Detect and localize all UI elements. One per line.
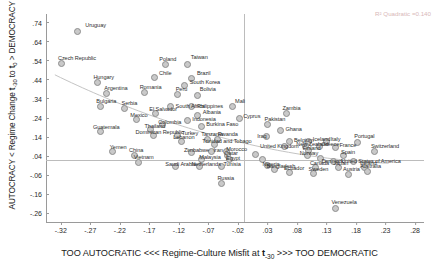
x-tick-label: .23 — [381, 222, 391, 234]
data-point-label: Zambia — [282, 105, 300, 111]
y-tick-label: .74 — [32, 19, 46, 26]
data-point-label: Spain — [341, 149, 355, 155]
data-point — [151, 74, 158, 81]
data-point-label: Brazil — [197, 70, 211, 76]
data-point-label: Switzerland — [371, 143, 399, 149]
data-point-label: South Korea — [190, 79, 220, 85]
y-tick-label: .64 — [32, 38, 46, 45]
data-point-label: Iraq — [257, 133, 266, 139]
data-point-label: China — [129, 147, 143, 153]
data-point — [184, 117, 191, 124]
data-point-label: Australia — [360, 163, 381, 169]
data-point-label: Rwanda — [218, 131, 238, 137]
data-point-label: Yemen — [110, 144, 127, 150]
data-point-label: Albania — [203, 109, 221, 115]
data-point-label: Argentina — [104, 85, 127, 91]
data-point-label: Bolivia — [200, 86, 216, 92]
data-point-label: Greece — [321, 141, 339, 147]
data-point-label: Venezuela — [331, 199, 356, 205]
data-point-label: El Salvador — [149, 106, 177, 112]
data-point-label: Sweden — [309, 166, 329, 172]
x-tick-label: -.12 — [173, 222, 185, 234]
data-point-label: Vietnam — [134, 154, 154, 160]
data-point-label: Portugal — [354, 133, 374, 139]
data-point-label: Lebanon — [173, 134, 194, 140]
data-point-label: Norway — [300, 150, 318, 156]
y-tick-label: .54 — [32, 57, 46, 64]
data-point — [229, 103, 236, 110]
data-point-label: Mexico — [130, 112, 147, 118]
x-tick-label: -.22 — [114, 222, 126, 234]
y-tick-label: .24 — [32, 115, 46, 122]
y-tick-label: .34 — [32, 95, 46, 102]
data-point-label: Uruguay — [85, 22, 106, 28]
x-tick-label: .03 — [263, 222, 273, 234]
data-point-label: Tunisia — [223, 161, 240, 167]
y-tick-label: .04 — [32, 153, 46, 160]
data-point-label: Peru — [176, 86, 188, 92]
data-point-label: United Kingdom — [260, 143, 299, 149]
scatter-chart: AUTOCRACY < Regime Change t-30 to t0 > D… — [0, 0, 439, 272]
x-tick-label: .18 — [351, 222, 361, 234]
y-tick-label: .44 — [32, 76, 46, 83]
data-point — [332, 205, 339, 212]
data-point-label: Philippines — [197, 103, 223, 109]
data-point-label: France — [339, 142, 356, 148]
data-point-label: Czech Republic — [58, 55, 96, 61]
data-point — [103, 90, 110, 97]
data-point-label: Ghana — [285, 126, 301, 132]
data-point-label: Ecuador — [284, 165, 304, 171]
data-point-label: Bulgaria — [96, 98, 116, 104]
y-tick-label: -.16 — [30, 191, 46, 198]
data-point-label: Mali — [235, 98, 245, 104]
y-tick-label: -.06 — [30, 172, 46, 179]
data-point-label: Chile — [159, 70, 171, 76]
data-point-label: Iran — [213, 147, 222, 153]
data-point-label: Russia — [217, 175, 234, 181]
x-tick-label: -.02 — [232, 222, 244, 234]
data-point-label: Hungary — [93, 74, 114, 80]
data-point-label: Taiwan — [191, 54, 208, 60]
data-point-label: Zimbabwe — [184, 147, 209, 153]
data-point-label: Netherlands — [192, 161, 221, 167]
data-point-label: Cyprus — [243, 113, 260, 119]
y-axis-title: AUTOCRACY < Regime Change t-30 to t0 > D… — [8, 0, 19, 210]
x-tick-label: .13 — [322, 222, 332, 234]
x-tick-label: -.27 — [84, 222, 96, 234]
data-point-label: Malaysia — [199, 154, 220, 160]
data-point-label: Austria — [343, 166, 360, 172]
data-point-label: Poland — [159, 56, 176, 62]
data-point — [97, 103, 104, 110]
x-tick-label: -.07 — [202, 222, 214, 234]
data-point-label: Egypt — [226, 155, 240, 161]
data-point — [74, 28, 81, 35]
data-point-label: Guatemala — [93, 124, 120, 130]
x-tick-label: -.17 — [143, 222, 155, 234]
data-point — [198, 123, 205, 130]
x-axis-title: TOO AUTOCRATIC <<< Regime-Culture Misfit… — [0, 248, 439, 260]
data-point-label: Trinidad and Tobago — [202, 138, 251, 144]
data-point-label: Serbia — [122, 100, 138, 106]
data-point-label: Romania — [140, 84, 162, 90]
data-point-label: Burkina Faso — [206, 121, 238, 127]
x-tick-label: -.32 — [55, 222, 67, 234]
data-point-label: Pakistan — [264, 116, 285, 122]
y-tick-label: .14 — [32, 134, 46, 141]
x-tick-label: .08 — [292, 222, 302, 234]
data-point — [94, 79, 101, 86]
y-tick-label: -.26 — [30, 210, 46, 217]
x-tick-label: .28 — [410, 222, 420, 234]
plot-area: .74.64.54.44.34.24.14.04-.06-.16-.26 -.3… — [46, 14, 424, 222]
